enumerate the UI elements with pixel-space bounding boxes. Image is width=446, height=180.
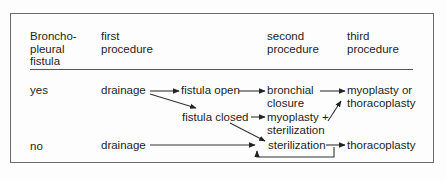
- flow-arrows: [0, 0, 446, 180]
- arrow-myoplasty-to-third: [328, 101, 341, 121]
- arrow-fistula-closed-to-sterilization: [230, 123, 265, 141]
- arrow-drainage-to-fistula-closed: [150, 94, 196, 108]
- arrow-sterilization-loop: [257, 147, 334, 157]
